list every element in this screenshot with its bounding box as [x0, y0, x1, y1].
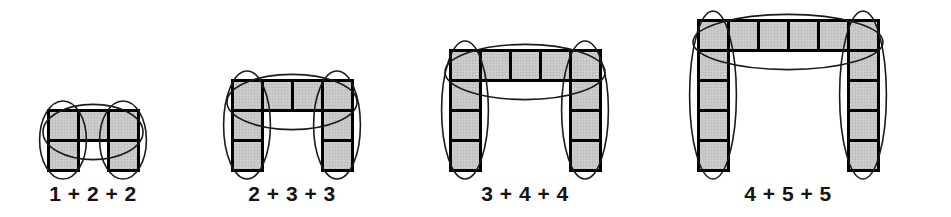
- unit-square: [232, 140, 262, 170]
- unit-square: [322, 140, 352, 170]
- unit-square: [848, 110, 878, 140]
- unit-square: [788, 20, 818, 50]
- figure-4: [672, 0, 904, 190]
- unit-square: [698, 110, 728, 140]
- unit-square: [480, 50, 510, 80]
- unit-square: [698, 80, 728, 110]
- arch-figure-strip: 1 + 2 + 22 + 3 + 33 + 4 + 44 + 5 + 5: [0, 0, 951, 217]
- unit-square-grid: [698, 20, 878, 170]
- unit-square: [450, 110, 480, 140]
- unit-square: [78, 110, 108, 140]
- figure-3: [424, 30, 626, 190]
- figure-label: 1 + 2 + 2: [0, 183, 193, 204]
- unit-square: [48, 140, 78, 170]
- unit-square: [698, 140, 728, 170]
- unit-square: [848, 140, 878, 170]
- figure-label: 4 + 5 + 5: [688, 183, 888, 204]
- unit-square: [540, 50, 570, 80]
- unit-square: [510, 50, 540, 80]
- unit-square-grid: [450, 50, 600, 170]
- unit-square: [848, 80, 878, 110]
- unit-square: [322, 80, 352, 110]
- figure-label: 2 + 3 + 3: [192, 183, 392, 204]
- unit-square-grid: [48, 110, 138, 170]
- unit-square: [48, 110, 78, 140]
- unit-square: [108, 140, 138, 170]
- figure-2: [206, 60, 378, 190]
- unit-square: [758, 20, 788, 50]
- figure-1: [22, 90, 164, 190]
- figure-label: 3 + 4 + 4: [425, 183, 625, 204]
- unit-square: [450, 140, 480, 170]
- unit-square: [570, 110, 600, 140]
- unit-square: [570, 140, 600, 170]
- unit-square: [108, 110, 138, 140]
- unit-square-grid: [232, 80, 352, 170]
- unit-square: [232, 80, 262, 110]
